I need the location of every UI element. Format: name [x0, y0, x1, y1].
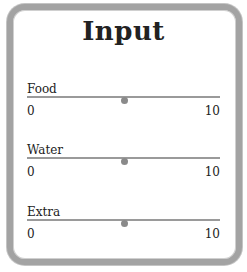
food-slider-thumb[interactable] [121, 97, 128, 104]
extra-slider-thumb[interactable] [121, 220, 128, 227]
extra-min-label: 0 [27, 227, 35, 241]
water-min-label: 0 [27, 165, 35, 179]
extra-max-label: 10 [205, 227, 220, 241]
food-min-label: 0 [27, 104, 35, 118]
food-max-label: 10 [205, 104, 220, 118]
food-slider[interactable]: Food 0 10 [27, 82, 220, 122]
water-slider-thumb[interactable] [121, 158, 128, 165]
extra-label: Extra [27, 205, 60, 219]
extra-slider[interactable]: Extra 0 10 [27, 205, 220, 245]
water-label: Water [27, 143, 63, 157]
food-label: Food [27, 82, 57, 96]
panel-title: Input [0, 16, 247, 46]
water-max-label: 10 [205, 165, 220, 179]
water-slider[interactable]: Water 0 10 [27, 143, 220, 183]
